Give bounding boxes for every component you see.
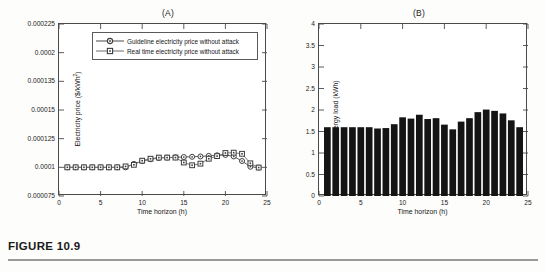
panel-a-ytick-4: 0.000135 [5,77,55,84]
panel-b-svg [319,24,528,196]
panel-a-xtick-5: 25 [257,199,277,206]
bar-hour-22 [500,113,507,196]
panel-a-series-realtime [65,150,261,170]
panel-a-x-axis-title: Time horizon (h) [59,208,265,215]
panel-a-ytick-1: 0.0001 [5,163,55,170]
y-axis-title-text: Electricity price ($/kWh [74,77,81,147]
panel-b-x-axis-title: Time horizon (h) [319,208,526,215]
bar-hour-24 [516,127,523,196]
panel-a: (A) Electricity price ($/kWh2) Time hori… [0,0,280,232]
panel-b-plot-area: Energy load (kWh) Time horizon (h) 00.51… [318,23,527,195]
bar-hour-7 [374,128,381,196]
panel-a-ytick-3: 0.00015 [5,106,55,113]
bar-hour-20 [483,110,490,196]
bar-hour-18 [466,118,473,196]
bar-hour-1 [324,127,331,196]
bar-hour-13 [424,119,431,196]
panel-a-title: (A) [0,8,308,18]
bar-hour-14 [433,118,440,196]
panel-b-xtick-3: 15 [434,199,454,206]
panel-a-xtick-3: 15 [174,199,194,206]
bar-hour-4 [349,127,356,196]
panel-b-ytick-8: 4 [283,20,315,27]
legend-label-guideline: Guideline electricity price without atta… [127,38,239,45]
panel-b-xtick-1: 5 [351,199,371,206]
panel-b-xtick-5: 25 [518,199,538,206]
panel-a-plot-area: Electricity price ($/kWh2) Time horizon … [58,23,266,195]
legend-item-guideline: Guideline electricity price without atta… [95,36,254,46]
panel-a-xtick-4: 20 [215,199,235,206]
panel-b-title: (B) [280,8,546,18]
y-axis-title-tail: ) [74,71,81,73]
panel-b-ytick-2: 1 [283,149,315,156]
bar-hour-23 [508,120,515,196]
panel-a-xtick-0: 0 [49,199,69,206]
bar-hour-11 [408,119,415,196]
caption-divider [8,259,538,261]
bar-hour-8 [383,128,390,196]
panel-a-ytick-0: 0.000075 [5,192,55,199]
figure-container: (A) Electricity price ($/kWh2) Time hori… [0,0,546,272]
legend-item-realtime: Real time electricity price without atta… [95,46,254,56]
panel-b-ytick-3: 1.5 [283,128,315,135]
bar-hour-9 [391,124,398,196]
bar-hour-3 [341,127,348,196]
bar-hour-15 [441,125,448,196]
panel-b-ytick-5: 2.5 [283,85,315,92]
panel-b-ytick-0: 0 [283,192,315,199]
panel-b-xtick-2: 10 [393,199,413,206]
bar-hour-17 [458,122,465,196]
panel-a-ytick-2: 0.000125 [5,135,55,142]
panel-b-ytick-7: 3.5 [283,42,315,49]
y-axis-title-superscript: 2 [73,74,78,77]
legend-label-realtime: Real time electricity price without atta… [127,48,239,55]
panel-b: (B) Energy load (kWh) Time horizon (h) 0… [280,0,546,232]
panel-a-y-axis-title: Electricity price ($/kWh2) [73,39,81,179]
legend-marker-square-icon [95,46,125,56]
panel-b-y-axis-title: Energy load (kWh) [332,39,339,179]
panel-a-xtick-1: 5 [91,199,111,206]
panel-b-xtick-4: 20 [476,199,496,206]
bar-hour-21 [491,111,498,196]
bar-hour-16 [449,129,456,196]
panel-b-ytick-6: 3 [283,63,315,70]
panel-a-ytick-5: 0.0002 [5,49,55,56]
legend-marker-circle-icon [95,36,125,46]
bar-hour-19 [475,112,482,196]
bar-hour-5 [357,127,364,196]
panel-b-xtick-0: 0 [309,199,329,206]
panel-a-xtick-2: 10 [132,199,152,206]
panel-a-ytick-6: 0.000225 [5,20,55,27]
panel-b-bar-series [324,110,523,196]
figure-caption: FIGURE 10.9 [8,240,80,252]
bar-hour-12 [416,115,423,196]
bar-hour-6 [366,127,373,196]
panel-b-ytick-1: 0.5 [283,171,315,178]
bar-hour-10 [399,117,406,196]
panel-a-legend: Guideline electricity price without atta… [92,32,258,60]
panel-b-ytick-4: 2 [283,106,315,113]
